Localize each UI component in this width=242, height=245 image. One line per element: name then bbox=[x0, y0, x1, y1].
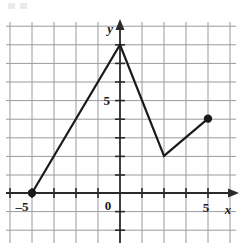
x-axis-label: x bbox=[224, 202, 232, 217]
origin-label: 0 bbox=[105, 198, 112, 213]
endpoint-dot-left bbox=[28, 189, 36, 197]
endpoint-dot-right bbox=[204, 114, 212, 122]
graph-figure: y x –5 0 5 5 bbox=[0, 0, 242, 245]
scan-artifact-top-left bbox=[8, 3, 15, 9]
y-axis-label: y bbox=[105, 21, 113, 36]
x-axis bbox=[6, 188, 239, 198]
coordinate-plane: y x –5 0 5 5 bbox=[0, 0, 242, 245]
grid-horizontal-lines bbox=[6, 26, 236, 230]
x-tick-label-neg5: –5 bbox=[15, 199, 30, 214]
scan-artifact-top-left-2 bbox=[20, 3, 27, 9]
y-tick-label-5: 5 bbox=[104, 93, 111, 108]
x-tick-label-5: 5 bbox=[203, 200, 210, 215]
